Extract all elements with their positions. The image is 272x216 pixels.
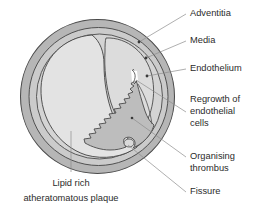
leader-dot-thrombus <box>131 117 134 120</box>
label-fissure: Fissure <box>190 186 220 196</box>
leader-dot-adventitia <box>138 41 141 44</box>
leader-adventitia <box>139 14 186 42</box>
label-regrowth-line-1: Regrowth of <box>190 94 241 104</box>
artery-cross-section-figure: Adventitia Media Endothelium Regrowth of… <box>0 0 272 216</box>
label-organising-line-2: thrombus <box>190 163 229 173</box>
label-regrowth-line-3: cells <box>190 118 209 128</box>
label-adventitia: Adventitia <box>190 8 232 18</box>
label-organising-line-1: Organising <box>190 151 235 161</box>
figure-canvas: Adventitia Media Endothelium Regrowth of… <box>0 0 272 216</box>
leader-dot-media <box>145 57 148 60</box>
label-regrowth-line-2: endothelial <box>190 106 235 116</box>
leader-fissure <box>128 145 186 192</box>
label-media: Media <box>190 35 216 45</box>
leader-dot-endothelium <box>146 75 149 78</box>
label-plaque-line-2: atheratomatous plaque <box>23 193 118 203</box>
label-endothelium: Endothelium <box>190 63 242 73</box>
label-plaque-line-1: Lipid rich <box>52 178 89 188</box>
